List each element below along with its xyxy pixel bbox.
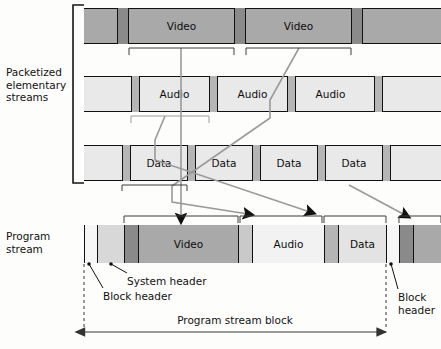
overlay-vectors — [0, 0, 441, 349]
connector-lines — [155, 48, 405, 218]
system-header-callout: System header — [127, 275, 206, 288]
figure-canvas: Packetized elementary streams Program st… — [0, 0, 441, 349]
block-header-callout: Block header — [103, 290, 172, 303]
program-stream-block-label: Program stream block — [84, 314, 386, 327]
packetized-streams-bracket — [73, 5, 84, 183]
packet-brackets — [122, 48, 441, 223]
block-header-right-callout: Block header — [398, 291, 435, 316]
